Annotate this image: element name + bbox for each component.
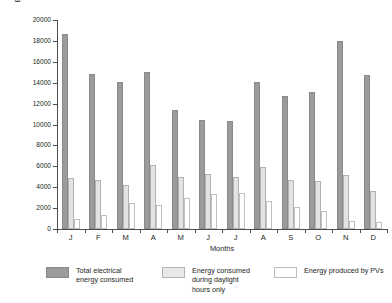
- legend-swatch-icon: [274, 267, 297, 278]
- x-axis-tick: [360, 229, 361, 233]
- y-axis-tick-label: 14000: [33, 79, 51, 86]
- x-axis-tick-label: J: [234, 234, 238, 242]
- legend-label: Total electrical energy consumed: [76, 266, 133, 285]
- x-axis-tick: [277, 229, 278, 233]
- y-axis-tick: [53, 166, 57, 167]
- y-axis-tick-label: 12000: [33, 100, 51, 107]
- x-axis-tick: [57, 229, 58, 233]
- bar-group: [117, 20, 136, 229]
- bar: [129, 203, 135, 229]
- plot-area: 0200040006000800010000120001400016000180…: [57, 20, 387, 230]
- y-axis-tick-label: 6000: [36, 163, 51, 170]
- x-axis-tick-label: J: [206, 234, 210, 242]
- x-axis-tick: [387, 229, 388, 233]
- y-axis-title-wrapper: Energy consumption/production (kWh/month…: [16, 20, 28, 230]
- bar: [239, 193, 245, 229]
- x-axis-tick: [250, 229, 251, 233]
- bar-group: [172, 20, 191, 229]
- y-axis-tick: [53, 125, 57, 126]
- x-axis-title: Months: [57, 244, 387, 253]
- bar: [266, 201, 272, 229]
- bar-group: [89, 20, 108, 229]
- bar-group: [309, 20, 328, 229]
- legend-item-pv-produced: Energy produced by PVs: [274, 266, 384, 278]
- y-axis-tick-label: 18000: [33, 38, 51, 45]
- x-axis-tick-label: F: [96, 234, 101, 242]
- bar: [101, 215, 107, 229]
- bar: [294, 207, 300, 229]
- x-axis-tick-label: N: [343, 234, 348, 242]
- bar-group: [337, 20, 356, 229]
- x-axis-tick-label: S: [288, 234, 293, 242]
- bar-group: [144, 20, 163, 229]
- chart-figure: Energy consumption/production (kWh/month…: [0, 0, 392, 303]
- x-axis-tick: [140, 229, 141, 233]
- y-axis-tick-label: 20000: [33, 17, 51, 24]
- legend-swatch-icon: [46, 267, 69, 278]
- y-axis-title: Energy consumption/production (kWh/month…: [14, 0, 22, 36]
- y-axis-tick: [53, 41, 57, 42]
- x-axis-tick: [332, 229, 333, 233]
- x-axis-tick-label: A: [261, 234, 266, 242]
- bar: [211, 194, 217, 229]
- x-axis-tick-label: A: [151, 234, 156, 242]
- y-axis-tick: [53, 208, 57, 209]
- bar-group: [282, 20, 301, 229]
- bar: [321, 211, 327, 229]
- y-axis-tick: [53, 104, 57, 105]
- y-axis-tick: [53, 83, 57, 84]
- bar: [184, 198, 190, 229]
- bar-group: [364, 20, 383, 229]
- bar-group: [254, 20, 273, 229]
- bar: [349, 221, 355, 229]
- x-axis-tick: [167, 229, 168, 233]
- y-axis-line: [57, 20, 58, 230]
- x-axis-tick: [85, 229, 86, 233]
- x-axis-tick-label: O: [315, 234, 321, 242]
- legend-label: Energy produced by PVs: [304, 266, 384, 275]
- x-axis-tick-label: J: [69, 234, 73, 242]
- y-axis-tick-label: 2000: [36, 205, 51, 212]
- y-axis-tick-label: 4000: [36, 184, 51, 191]
- y-axis-tick-label: 8000: [36, 142, 51, 149]
- x-axis-tick: [195, 229, 196, 233]
- bar-group: [227, 20, 246, 229]
- y-axis-tick: [53, 20, 57, 21]
- bar-group: [199, 20, 218, 229]
- y-axis-tick: [53, 187, 57, 188]
- legend-swatch-icon: [162, 267, 185, 278]
- x-axis-tick: [222, 229, 223, 233]
- y-axis-tick: [53, 62, 57, 63]
- y-axis-tick: [53, 145, 57, 146]
- chart-legend: Total electrical energy consumed Energy …: [46, 266, 386, 302]
- y-axis-tick-label: 16000: [33, 59, 51, 66]
- x-axis-tick-label: D: [371, 234, 376, 242]
- legend-item-daylight-consumed: Energy consumed during daylight hours on…: [162, 266, 250, 294]
- y-axis-tick-label: 10000: [33, 121, 51, 128]
- bar: [156, 205, 162, 229]
- legend-item-total-consumed: Total electrical energy consumed: [46, 266, 133, 285]
- bar: [376, 222, 382, 229]
- bar: [74, 219, 80, 229]
- bar-group: [62, 20, 81, 229]
- x-axis-tick: [112, 229, 113, 233]
- y-axis-tick-label: 0: [47, 226, 51, 233]
- x-axis-tick-label: M: [123, 234, 129, 242]
- x-axis-tick: [305, 229, 306, 233]
- x-axis-tick-label: M: [178, 234, 184, 242]
- legend-label: Energy consumed during daylight hours on…: [192, 266, 250, 294]
